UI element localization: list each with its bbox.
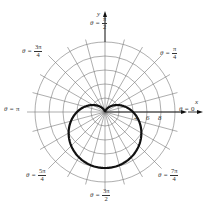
grid-spoke <box>68 47 106 112</box>
theta-prefix: θ = <box>22 48 32 55</box>
theta-prefix: θ = <box>26 172 36 179</box>
angle-label-a135: θ = 3π4 <box>22 44 42 59</box>
angle-value: 0 <box>191 106 195 113</box>
x-axis-label: x <box>195 98 198 106</box>
grid-spoke <box>105 47 143 112</box>
grid-spoke <box>105 75 170 113</box>
angle-fraction: π2 <box>102 16 107 31</box>
angle-value: π <box>16 106 20 113</box>
angle-fraction: 5π4 <box>38 168 47 183</box>
fraction-denominator: 4 <box>41 176 44 183</box>
grid-spoke <box>105 93 177 112</box>
grid-spoke <box>40 75 105 113</box>
angle-label-a45: θ = π4 <box>160 46 177 61</box>
angle-label-a0: θ = 0 <box>179 106 194 113</box>
fraction-denominator: 4 <box>173 54 176 61</box>
angle-fraction: π4 <box>172 46 177 61</box>
theta-prefix: θ = <box>90 20 100 27</box>
grid-spoke <box>105 112 124 184</box>
theta-prefix: θ = <box>160 50 170 57</box>
tick-4: 4 <box>134 114 138 122</box>
x-axis-arrowhead-icon <box>197 110 203 114</box>
axes <box>27 11 203 190</box>
theta-prefix: θ = <box>4 106 14 113</box>
tick-8: 8 <box>158 114 162 122</box>
theta-prefix: θ = <box>179 106 189 113</box>
angle-label-a315: θ = 7π4 <box>158 168 178 183</box>
tick-6: 6 <box>146 114 150 122</box>
grid-spoke <box>105 40 124 112</box>
fraction-denominator: 4 <box>37 52 40 59</box>
angle-fraction: 3π4 <box>34 44 43 59</box>
grid-spoke <box>86 112 105 184</box>
y-axis-label: y <box>97 10 100 18</box>
grid-spoke <box>86 40 105 112</box>
angle-label-a225: θ = 5π4 <box>26 168 46 183</box>
fraction-denominator: 2 <box>103 24 106 31</box>
angle-fraction: 7π4 <box>170 168 179 183</box>
fraction-denominator: 2 <box>105 196 108 203</box>
angle-label-a90: θ = π2 <box>90 16 107 31</box>
theta-prefix: θ = <box>158 172 168 179</box>
theta-prefix: θ = <box>90 192 100 199</box>
angle-label-a180: θ = π <box>4 106 19 113</box>
angle-fraction: 3π2 <box>102 188 111 203</box>
angle-label-a270: θ = 3π2 <box>90 188 110 203</box>
fraction-denominator: 4 <box>173 176 176 183</box>
grid-spoke <box>33 93 105 112</box>
